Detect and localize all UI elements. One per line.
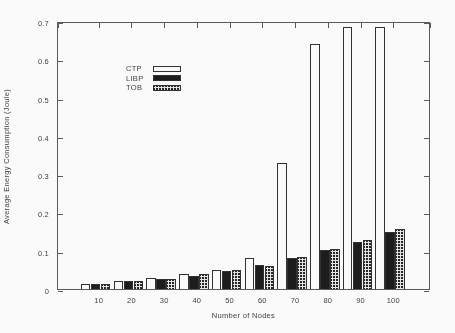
y-tick-label: 0.7 xyxy=(38,19,49,28)
bar-group xyxy=(81,23,111,289)
bar-libp-30 xyxy=(156,279,166,289)
bar-ctp-10 xyxy=(81,284,91,289)
y-tick-label: 0.2 xyxy=(38,210,49,219)
x-tick-label: 30 xyxy=(160,296,169,305)
y-tick-mark-right xyxy=(424,291,429,292)
x-tick-label: 40 xyxy=(193,296,202,305)
y-tick-mark-right xyxy=(424,214,429,215)
bar-group xyxy=(245,23,275,289)
y-tick-label: 0.1 xyxy=(38,248,49,257)
bar-tob-10 xyxy=(101,284,111,289)
bar-tob-60 xyxy=(265,266,275,289)
x-tick-label: 100 xyxy=(387,296,400,305)
chart-figure: Average Energy Consumption (Joule) 00.10… xyxy=(0,0,455,333)
bar-tob-20 xyxy=(134,281,144,289)
bar-ctp-50 xyxy=(212,270,222,289)
x-tick-label: 50 xyxy=(225,296,234,305)
bar-libp-100 xyxy=(385,232,395,289)
x-tick-label: 10 xyxy=(94,296,103,305)
bar-ctp-80 xyxy=(310,44,320,289)
y-tick-label: 0 xyxy=(45,287,49,296)
bar-libp-90 xyxy=(353,242,363,289)
legend-label: CTP xyxy=(126,64,151,73)
bar-tob-100 xyxy=(395,229,405,289)
bar-ctp-30 xyxy=(146,278,156,289)
x-axis-title: Number of Nodes xyxy=(57,311,430,320)
bar-libp-10 xyxy=(91,284,101,289)
bar-group xyxy=(277,23,307,289)
bar-tob-70 xyxy=(297,257,307,289)
legend-item-ctp: CTP xyxy=(126,64,181,74)
y-tick-mark xyxy=(58,61,63,62)
legend-item-tob: TOB xyxy=(126,83,181,93)
bar-tob-80 xyxy=(330,249,340,289)
y-tick-mark xyxy=(58,138,63,139)
y-tick-mark-right xyxy=(424,253,429,254)
bar-ctp-60 xyxy=(245,258,255,289)
x-tick-label: 80 xyxy=(323,296,332,305)
y-tick-mark-right xyxy=(424,138,429,139)
bar-libp-20 xyxy=(124,281,134,289)
bar-libp-70 xyxy=(287,258,297,289)
x-axis-title-label: Number of Nodes xyxy=(212,311,275,320)
bar-group xyxy=(375,23,405,289)
legend-label: TOB xyxy=(126,83,151,92)
x-tick-label: 60 xyxy=(258,296,267,305)
bar-tob-40 xyxy=(199,274,209,289)
chart-legend: CTPLIBPTOB xyxy=(126,64,181,93)
bar-group xyxy=(343,23,373,289)
bar-ctp-90 xyxy=(343,27,353,289)
bar-libp-50 xyxy=(222,271,232,289)
y-tick-mark xyxy=(58,291,63,292)
y-tick-mark xyxy=(58,253,63,254)
black-bar-swatch xyxy=(153,75,181,81)
y-tick-mark xyxy=(58,176,63,177)
y-tick-label: 0.5 xyxy=(38,95,49,104)
bar-libp-60 xyxy=(255,265,265,289)
x-tick-label: 70 xyxy=(291,296,300,305)
bar-tob-30 xyxy=(166,279,176,289)
x-tick-label: 90 xyxy=(356,296,365,305)
bar-group xyxy=(310,23,340,289)
bar-group xyxy=(212,23,242,289)
legend-label: LIBP xyxy=(126,74,151,83)
bar-ctp-70 xyxy=(277,163,287,289)
bar-libp-80 xyxy=(320,250,330,289)
bar-tob-50 xyxy=(232,270,242,289)
bar-libp-40 xyxy=(189,276,199,289)
x-tick-mark-top xyxy=(58,23,59,28)
y-tick-label: 0.4 xyxy=(38,133,49,142)
bar-group xyxy=(146,23,176,289)
x-tick-label: 20 xyxy=(127,296,136,305)
y-tick-mark-right xyxy=(424,100,429,101)
y-tick-label: 0.6 xyxy=(38,57,49,66)
y-tick-label: 0.3 xyxy=(38,172,49,181)
y-tick-mark-right xyxy=(424,176,429,177)
legend-item-libp: LIBP xyxy=(126,74,181,84)
y-axis-title: Average Energy Consumption (Joule) xyxy=(0,22,14,290)
y-tick-mark xyxy=(58,100,63,101)
bar-group xyxy=(179,23,209,289)
y-axis-title-label: Average Energy Consumption (Joule) xyxy=(3,88,12,223)
bar-group xyxy=(114,23,144,289)
white-bar-swatch xyxy=(153,66,181,72)
bar-ctp-40 xyxy=(179,274,189,289)
y-tick-mark xyxy=(58,214,63,215)
bar-tob-90 xyxy=(363,240,373,289)
x-tick-mark-top xyxy=(430,23,431,28)
y-tick-mark-right xyxy=(424,61,429,62)
hatched-bar-swatch xyxy=(153,85,181,91)
bar-ctp-100 xyxy=(375,27,385,289)
plot-area: 00.10.20.30.40.50.60.7 10203040506070809… xyxy=(57,22,430,290)
bar-ctp-20 xyxy=(114,281,124,289)
y-tick-mark-right xyxy=(424,23,429,24)
